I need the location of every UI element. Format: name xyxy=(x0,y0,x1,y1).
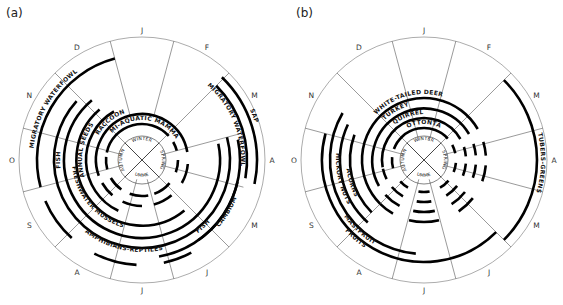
month-label: D xyxy=(74,43,80,52)
season-label-autumn: AUTUMN xyxy=(118,148,126,172)
partial-availability-dash xyxy=(123,202,142,206)
month-label: J xyxy=(205,268,208,277)
month-label: F xyxy=(205,43,209,52)
partial-availability-dash xyxy=(440,181,449,188)
month-label: J xyxy=(422,26,425,35)
partial-availability-dash xyxy=(385,195,399,206)
partial-availability-dash xyxy=(106,157,107,169)
wheel-a: WINTERSPRINGSUMMERAUTUMNJFMAMJJASONDSEMI… xyxy=(0,0,275,295)
month-label: J xyxy=(422,286,425,295)
partial-availability-dash xyxy=(482,165,486,181)
partial-availability-dash xyxy=(102,183,112,195)
partial-availability-dash xyxy=(380,204,393,214)
partial-availability-dash xyxy=(111,178,122,189)
partial-availability-dash xyxy=(413,211,435,212)
season-label-summer: SUMMER xyxy=(0,0,150,178)
partial-availability-dash xyxy=(483,142,486,156)
partial-availability-dash xyxy=(452,192,465,204)
partial-availability-dash xyxy=(154,183,169,194)
month-label: M xyxy=(533,91,539,100)
resource-label: CAMBIUM xyxy=(214,195,238,228)
month-divider xyxy=(161,165,243,187)
availability-bar xyxy=(504,80,537,240)
month-label: A xyxy=(356,268,362,277)
month-label: S xyxy=(309,221,314,230)
partial-availability-dash xyxy=(173,142,177,151)
month-label: M xyxy=(251,221,257,230)
availability-bar xyxy=(198,182,237,240)
month-label: D xyxy=(356,43,362,52)
month-divider xyxy=(443,128,542,155)
partial-availability-dash xyxy=(392,187,403,196)
resource-label: AMPHIBIANS-REPTILES xyxy=(84,227,163,253)
partial-availability-dash xyxy=(392,157,393,168)
month-divider xyxy=(305,128,404,155)
partial-availability-dash xyxy=(463,164,466,176)
month-label: J xyxy=(140,286,143,295)
resource-ring-tubers-greens xyxy=(504,80,537,240)
partial-availability-dash xyxy=(473,165,476,178)
partial-availability-dash xyxy=(454,163,456,172)
partial-availability-dash xyxy=(473,144,475,156)
partial-availability-dash xyxy=(459,198,473,211)
month-label: M xyxy=(533,221,539,230)
month-label: J xyxy=(487,268,490,277)
month-divider xyxy=(110,41,130,117)
resource-label: ANNUAL SEEDS xyxy=(76,121,95,179)
partial-availability-dash xyxy=(400,181,408,187)
month-divider xyxy=(153,41,173,117)
partial-availability-dash xyxy=(154,195,172,204)
partial-availability-dash xyxy=(182,164,188,183)
month-divider xyxy=(443,165,542,192)
resource-label: SQUIRRELS xyxy=(0,0,424,125)
month-divider xyxy=(147,179,174,278)
availability-bar xyxy=(382,118,460,167)
month-divider xyxy=(392,179,419,278)
resource-ring-cambium xyxy=(198,182,237,240)
resource-label: FISH xyxy=(54,151,61,169)
month-label: A xyxy=(551,156,557,165)
month-label: N xyxy=(27,91,33,100)
month-label: S xyxy=(27,221,32,230)
seasonal-resource-wheels: WINTERSPRINGSUMMERAUTUMNJFMAMJJASONDSEMI… xyxy=(0,0,563,305)
partial-availability-dash xyxy=(176,160,178,172)
month-label: M xyxy=(251,91,257,100)
month-label: O xyxy=(291,156,297,165)
month-label: O xyxy=(9,156,15,165)
month-label: A xyxy=(74,268,80,277)
month-label: A xyxy=(269,156,275,165)
season-label-autumn: AUTUMN xyxy=(400,148,408,172)
month-label: N xyxy=(309,91,315,100)
month-label: J xyxy=(140,26,143,35)
partial-availability-dash xyxy=(409,220,439,222)
partial-availability-dash xyxy=(130,194,149,196)
month-label: F xyxy=(487,43,491,52)
partial-availability-dash xyxy=(417,201,432,202)
partial-availability-dash xyxy=(464,147,466,156)
month-divider xyxy=(429,179,456,278)
